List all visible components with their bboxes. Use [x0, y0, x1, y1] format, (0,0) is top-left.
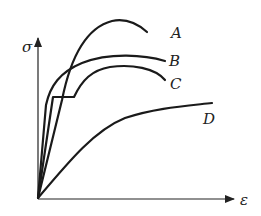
stress-strain-diagram: σ ε A B C D	[0, 0, 261, 216]
curve-a	[38, 20, 147, 198]
curve-d	[38, 103, 212, 198]
x-axis-label: ε	[240, 191, 248, 209]
y-axis-label: σ	[22, 38, 33, 56]
curve-d-label: D	[202, 110, 215, 128]
diagram-canvas: σ ε A B C D	[0, 0, 261, 216]
curve-b-label: B	[168, 52, 180, 70]
curve-c-label: C	[170, 75, 182, 93]
curve-a-label: A	[169, 24, 182, 42]
